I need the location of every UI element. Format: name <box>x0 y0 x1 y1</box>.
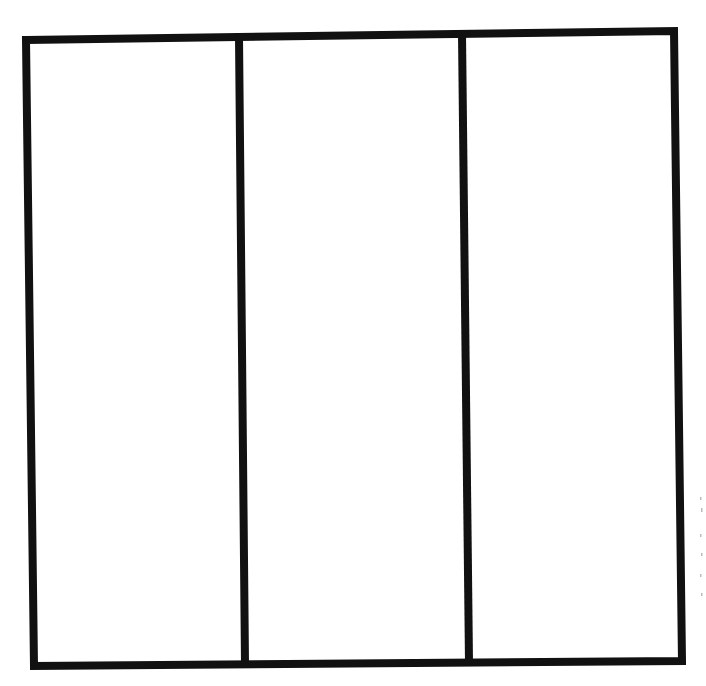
column-divider-1 <box>239 37 245 664</box>
diagram-canvas <box>0 0 706 686</box>
scan-artifacts <box>700 497 703 596</box>
outer-frame <box>26 31 682 666</box>
grid-drawing <box>0 0 706 686</box>
column-divider-2 <box>462 34 469 662</box>
